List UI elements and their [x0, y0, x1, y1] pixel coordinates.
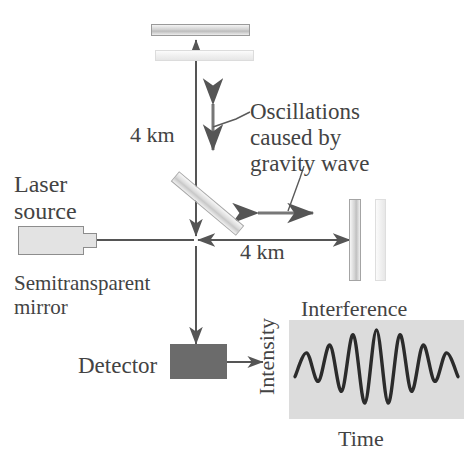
detector-label: Detector — [78, 353, 157, 379]
interference-plot-panel — [289, 320, 464, 419]
semitransparent-mirror-label: Semitransparent mirror — [14, 272, 150, 319]
gravity-wave-interferometer-diagram: Laser source Semitransparent mirror Osci… — [0, 0, 471, 462]
laser-source-label: Laser source — [14, 171, 77, 225]
right-mirror-near — [349, 199, 361, 281]
laser-source-body — [18, 226, 84, 255]
x-axis-label: Time — [338, 427, 384, 452]
waveform-curve — [295, 330, 458, 403]
laser-source-nozzle — [83, 233, 97, 248]
right-mirror-far — [375, 199, 386, 281]
oscillation-leader-line-vertical — [213, 112, 250, 127]
vertical-arm-length-label: 4 km — [130, 123, 175, 148]
oscillations-label: Oscillations caused by gravity wave — [250, 99, 369, 176]
top-mirror-far — [155, 50, 254, 61]
horizontal-arm-length-label: 4 km — [240, 240, 285, 265]
y-axis-label: Intensity — [255, 318, 280, 395]
interference-title-label: Interference — [301, 297, 407, 322]
top-mirror-near — [151, 24, 250, 36]
interference-waveform — [289, 320, 464, 419]
detector-body — [170, 344, 227, 379]
